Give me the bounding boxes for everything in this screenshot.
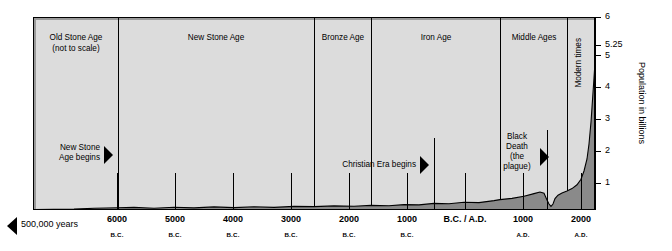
xtick-era-1000bc: B.C.	[377, 231, 437, 238]
arrow-timespan-icon	[7, 217, 17, 235]
ytick-4	[595, 87, 601, 88]
ytick-5-25	[595, 45, 601, 46]
footnote-timespan: 500,000 years	[21, 219, 78, 229]
xtick-era-4000: B.C.	[203, 231, 263, 238]
xtick-era-3000: B.C.	[261, 231, 321, 238]
xtick-6000bc	[117, 173, 118, 210]
xtick-5000bc	[175, 173, 176, 210]
y-axis-title: Population in billions	[637, 62, 647, 144]
annotation-black-death: Black Death (the plague)	[496, 132, 538, 172]
xtick-1000ad	[523, 173, 524, 210]
xtick-label-2000bc: 2000	[319, 214, 379, 225]
xtick-bc-ad	[465, 173, 466, 210]
ytick-3	[595, 119, 601, 120]
xtick-era-2000bc: B.C.	[319, 231, 379, 238]
annotation-christian-era-begins: Christian Era begins	[327, 160, 416, 170]
event-line-new-stone-age	[118, 118, 119, 209]
xtick-label-3000: 3000	[261, 214, 321, 225]
ytick-label-5: 5	[605, 51, 610, 60]
population-history-chart: Old Stone Age (not to scale) New Stone A…	[0, 0, 672, 251]
xtick-label-6000: 6000	[87, 214, 147, 225]
event-line-christian-era	[434, 138, 435, 209]
xtick-era-2000ad: A.D.	[551, 231, 611, 238]
ytick-2	[595, 151, 601, 152]
ytick-1	[595, 183, 601, 184]
xtick-2000ad	[581, 173, 582, 210]
annotation-new-stone-age-begins: New Stone Age begins	[42, 143, 100, 163]
ytick-label-3: 3	[605, 114, 610, 123]
xtick-4000bc	[233, 173, 234, 210]
arrow-black-death-icon	[540, 148, 549, 166]
xtick-era-6000: B.C.	[87, 231, 147, 238]
ytick-label-4: 4	[605, 82, 610, 91]
ytick-label-6: 6	[605, 12, 610, 21]
arrow-new-stone-age-icon	[104, 146, 113, 164]
xtick-label-4000: 4000	[203, 214, 263, 225]
xtick-era-5000: B.C.	[145, 231, 205, 238]
xtick-label-2000ad: 2000	[551, 214, 611, 225]
xtick-1000bc	[407, 173, 408, 210]
xtick-label-1000ad: 1000	[493, 214, 553, 225]
event-line-black-death	[547, 130, 548, 209]
ytick-label-5-25: 5.25	[605, 40, 623, 49]
xtick-2000bc	[349, 173, 350, 210]
ytick-label-2: 2	[605, 146, 610, 155]
ytick-6	[595, 17, 601, 18]
plot-inner: Old Stone Age (not to scale) New Stone A…	[34, 18, 594, 209]
xtick-3000bc	[291, 173, 292, 210]
ytick-5	[595, 55, 601, 56]
arrow-christian-era-icon	[420, 156, 429, 174]
ytick-label-1: 1	[605, 178, 610, 187]
xtick-label-5000: 5000	[145, 214, 205, 225]
xtick-era-1000ad: A.D.	[493, 231, 553, 238]
